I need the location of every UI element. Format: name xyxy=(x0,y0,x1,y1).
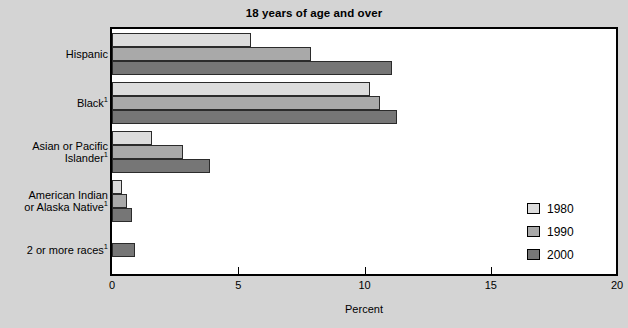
footnote-marker: 1 xyxy=(104,150,108,159)
bar-american-indian-or-alaska-native-2000 xyxy=(112,208,132,222)
legend-item-1990: 1990 xyxy=(527,221,607,242)
x-tick-label-15: 15 xyxy=(485,279,497,291)
legend-label-1980: 1980 xyxy=(547,202,574,216)
bar-black-1980 xyxy=(112,82,370,96)
legend-label-2000: 2000 xyxy=(547,248,574,262)
x-axis-title: Percent xyxy=(110,303,618,315)
bar-hispanic-1990 xyxy=(112,47,311,61)
x-tick-label-10: 10 xyxy=(358,279,370,291)
y-axis-label-hispanic: Hispanic xyxy=(2,47,108,60)
footnote-marker: 1 xyxy=(104,242,108,251)
y-axis-label-asian-or-pacific-islander: Asian or PacificIslander1 xyxy=(2,139,108,164)
legend-swatch-1980 xyxy=(527,203,540,214)
x-tick-mark-10 xyxy=(365,267,366,274)
y-axis-label-2-or-more-races: 2 or more races1 xyxy=(2,243,108,256)
chart-container: 18 years of age and over HispanicBlack1A… xyxy=(0,0,628,328)
bar-black-2000 xyxy=(112,110,397,124)
y-axis-label-black: Black1 xyxy=(2,96,108,109)
bar-black-1990 xyxy=(112,96,380,110)
x-tick-label-5: 5 xyxy=(235,279,241,291)
bar-hispanic-1980 xyxy=(112,33,251,47)
bar-asian-or-pacific-islander-1990 xyxy=(112,145,183,159)
legend-swatch-2000 xyxy=(527,249,540,260)
bar-american-indian-or-alaska-native-1980 xyxy=(112,180,122,194)
bar-asian-or-pacific-islander-1980 xyxy=(112,131,152,145)
x-tick-label-20: 20 xyxy=(611,279,623,291)
legend-label-1990: 1990 xyxy=(547,225,574,239)
x-tick-mark-15 xyxy=(491,267,492,274)
chart-legend: 198019902000 xyxy=(527,198,607,267)
bar-asian-or-pacific-islander-2000 xyxy=(112,159,210,173)
x-tick-mark-5 xyxy=(238,267,239,274)
footnote-marker: 1 xyxy=(104,199,108,208)
bar-2-or-more-races-2000 xyxy=(112,243,135,257)
legend-item-1980: 1980 xyxy=(527,198,607,219)
legend-item-2000: 2000 xyxy=(527,244,607,265)
y-axis-labels: HispanicBlack1Asian or PacificIslander1A… xyxy=(0,0,108,328)
bar-american-indian-or-alaska-native-1990 xyxy=(112,194,127,208)
y-axis-label-american-indian-or-alaska-native: American Indianor Alaska Native1 xyxy=(2,188,108,213)
footnote-marker: 1 xyxy=(104,95,108,104)
x-tick-label-0: 0 xyxy=(109,279,115,291)
legend-swatch-1990 xyxy=(527,226,540,237)
bar-hispanic-2000 xyxy=(112,61,392,75)
